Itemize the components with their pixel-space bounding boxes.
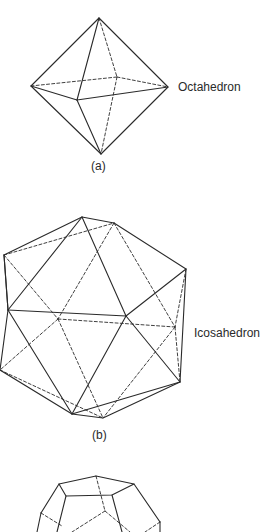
octahedron-label: Octahedron (178, 80, 241, 94)
caption-a: (a) (91, 159, 106, 173)
icosahedron-drawing (0, 217, 186, 418)
octahedron-drawing (31, 18, 168, 154)
icosahedron-label: Icosahedron (194, 326, 260, 340)
dodecahedron-drawing (37, 476, 160, 532)
caption-b: (b) (92, 428, 107, 442)
